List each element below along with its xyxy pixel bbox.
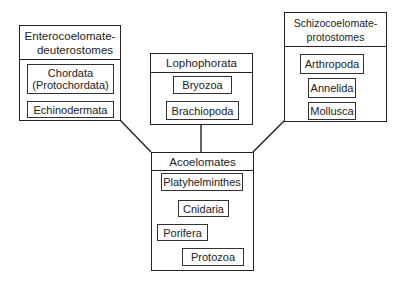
node-brachiopoda: Brachiopoda (166, 101, 239, 120)
title-line: protostomes (285, 30, 386, 44)
node-label: Annelida (309, 82, 355, 94)
group-title: Lophophorata (151, 54, 252, 73)
title-line: Enterocoelomate- (20, 29, 120, 43)
node-label: Brachiopoda (167, 105, 238, 117)
node-arthropoda: Arthropoda (300, 54, 364, 74)
node-label: Chordata (28, 67, 113, 79)
node-cnidaria: Cnidaria (178, 200, 229, 217)
node-platyhelminthes: Platyhelminthes (161, 173, 243, 191)
node-annelida: Annelida (308, 78, 356, 98)
node-protozoa: Protozoa (182, 248, 244, 266)
edge-acoelomates-schizocoelomate (253, 121, 284, 152)
title-line: Acoelomates (152, 155, 253, 169)
node-label: Protozoa (183, 251, 243, 263)
node-label: Cnidaria (179, 203, 228, 215)
node-label: Arthropoda (301, 58, 363, 70)
node-label: Echinodermata (28, 104, 113, 116)
title-line: Lophophorata (151, 56, 252, 70)
title-line: Schizocoelomate- (285, 16, 386, 30)
node-echinodermata: Echinodermata (27, 101, 114, 118)
node-label: Platyhelminthes (162, 176, 242, 188)
node-label: Porifera (158, 227, 207, 239)
edge-acoelomates-enterocoelomate (120, 120, 151, 152)
node-chordata: Chordata (Protochordata) (27, 64, 114, 94)
node-porifera: Porifera (157, 224, 208, 241)
node-bryozoa: Bryozoa (173, 76, 232, 94)
node-label: Mollusca (309, 105, 355, 117)
node-label: Bryozoa (174, 79, 231, 91)
group-title: Schizocoelomate- protostomes (285, 13, 386, 47)
group-title: Acoelomates (152, 153, 253, 171)
group-title: Enterocoelomate- deuterostomes (20, 26, 120, 60)
node-label: (Protochordata) (28, 79, 113, 91)
node-mollusca: Mollusca (308, 102, 356, 120)
title-line: deuterostomes (20, 43, 120, 57)
